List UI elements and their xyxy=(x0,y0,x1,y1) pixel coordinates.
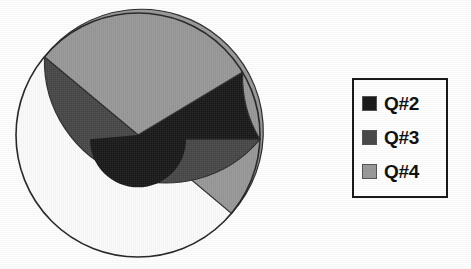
legend-label-q3: Q#3 xyxy=(384,128,419,147)
legend-swatch-q3 xyxy=(362,130,377,145)
legend-item-q4[interactable]: Q#4 xyxy=(354,154,446,188)
pie-texture-overlay xyxy=(17,14,259,256)
legend-label-q4: Q#4 xyxy=(384,162,419,181)
pie-chart-figure: Q#2 Q#3 Q#4 xyxy=(0,0,471,269)
legend-item-q2[interactable]: Q#2 xyxy=(354,86,446,120)
legend-item-q3[interactable]: Q#3 xyxy=(354,120,446,154)
pie-chart-svg xyxy=(0,0,290,269)
legend-swatch-q2 xyxy=(362,96,377,111)
legend-label-q2: Q#2 xyxy=(384,94,419,113)
chart-legend: Q#2 Q#3 Q#4 xyxy=(352,78,448,198)
pie-chart-plot-area xyxy=(0,0,290,269)
legend-swatch-q4 xyxy=(362,164,377,179)
